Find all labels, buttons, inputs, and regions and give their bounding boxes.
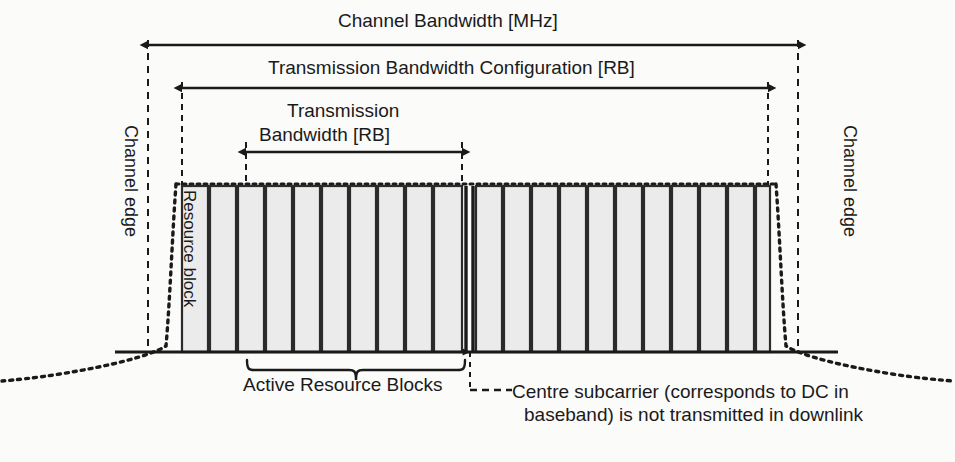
channel-bandwidth-label: Channel Bandwidth [MHz] [338, 10, 558, 32]
active-resource-blocks-label: Active Resource Blocks [243, 374, 443, 396]
transmission-bandwidth-label-line1: Transmission [287, 100, 399, 122]
transmission-bandwidth-label-line2: Bandwidth [RB] [259, 124, 390, 146]
centre-subcarrier-note-line1: Centre subcarrier (corresponds to DC in [512, 381, 849, 403]
resource-block-group-left [182, 186, 462, 352]
resource-block-group-right [476, 186, 770, 352]
diagram-canvas: Channel Bandwidth [MHz] Transmission Ban… [0, 0, 955, 462]
centre-subcarrier-note-line2: baseband) is not transmitted in downlink [524, 404, 863, 426]
centre-subcarrier-marker [466, 186, 473, 352]
channel-edge-left-label: Channel edge [120, 125, 141, 237]
centre-subcarrier-callout-leader [470, 352, 512, 390]
resource-block-label: Resource block [179, 190, 199, 307]
channel-edge-right-label: Channel edge [839, 125, 860, 237]
transmission-bandwidth-configuration-label: Transmission Bandwidth Configuration [RB… [268, 57, 635, 79]
